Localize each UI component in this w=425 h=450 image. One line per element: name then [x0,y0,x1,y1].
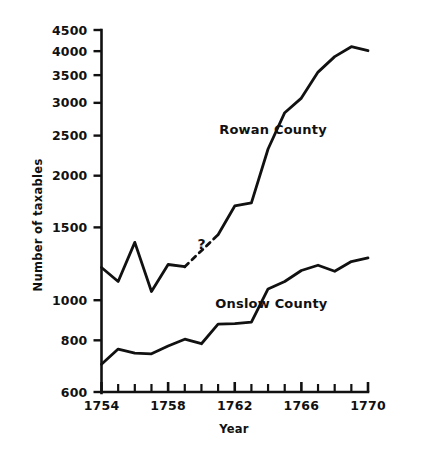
x-tick-label-1770: 1770 [350,398,386,413]
y-tick-label-3000: 3000 [52,95,88,110]
series-label-rowan: Rowan County [219,122,327,137]
chart-annotations: ? [197,236,205,252]
y-tick-label-2500: 2500 [52,128,88,143]
y-tick-label-4500: 4500 [52,23,88,38]
x-tick-label-1766: 1766 [284,398,320,413]
annotation-question-mark: ? [197,236,205,252]
x-axis-title: Year [218,422,249,436]
x-tick-label-1754: 1754 [84,398,120,413]
x-tick-label-1762: 1762 [217,398,253,413]
chart-figure: 60080010001500200025003000350040004500 1… [0,0,425,450]
y-tick-label-2000: 2000 [52,168,88,183]
x-tick-label-1758: 1758 [150,398,186,413]
y-tick-label-1000: 1000 [52,293,88,308]
y-tick-label-800: 800 [61,333,88,348]
y-tick-label-1500: 1500 [52,220,88,235]
taxables-line-chart: 60080010001500200025003000350040004500 1… [0,0,425,450]
y-tick-label-4000: 4000 [52,44,88,59]
y-axis-title: Number of taxables [31,158,45,291]
series-label-onslow: Onslow County [215,296,328,311]
y-tick-label-3500: 3500 [52,68,88,83]
